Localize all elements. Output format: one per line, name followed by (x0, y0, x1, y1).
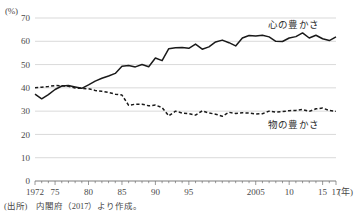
x-tick-label: 1972 (26, 187, 44, 197)
y-tick-label: 40 (21, 83, 31, 93)
data-series-group (35, 33, 336, 116)
y-tick-label: 60 (21, 36, 31, 46)
chart-figure: (%) 010203040506070 19727580859095200510… (0, 0, 354, 217)
y-tick-label: 10 (21, 153, 31, 163)
series-line-material-richness (35, 86, 336, 117)
x-tick-marks-group (35, 181, 336, 185)
source-note: (出所) 内閣府（2017）より作成。 (4, 199, 142, 211)
y-tick-label: 50 (21, 60, 31, 70)
y-tick-label: 0 (26, 176, 31, 186)
x-tick-label: 10 (285, 187, 295, 197)
x-tick-label: 85 (117, 187, 127, 197)
y-tick-label: 20 (21, 130, 31, 140)
x-tick-labels-group: 197275808590952005101517 (26, 187, 341, 197)
x-tick-label: 80 (84, 187, 94, 197)
chart-plot-area: 010203040506070 197275808590952005101517… (0, 0, 354, 217)
series-label-material-richness: 物の豊かさ (268, 117, 319, 131)
x-tick-label: 15 (318, 187, 328, 197)
x-tick-label: 95 (184, 187, 194, 197)
series-label-spiritual-richness: 心の豊かさ (268, 17, 319, 31)
gridlines-group (35, 18, 336, 181)
y-tick-labels-group: 010203040506070 (21, 13, 31, 186)
y-tick-label: 30 (21, 106, 31, 116)
x-tick-label: 75 (51, 187, 61, 197)
x-axis-unit-label: (年) (338, 186, 353, 197)
y-tick-label: 70 (21, 13, 31, 23)
x-tick-label: 2005 (247, 187, 266, 197)
x-tick-label: 90 (151, 187, 161, 197)
